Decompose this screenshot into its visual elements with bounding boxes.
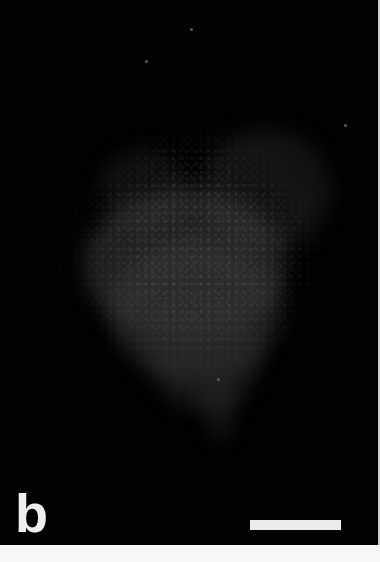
scale-bar — [250, 520, 341, 530]
figure-margin — [0, 545, 380, 562]
bright-speck — [190, 28, 193, 31]
bright-speck — [344, 124, 347, 127]
bright-speck — [217, 378, 220, 381]
micrograph-panel: b — [0, 0, 378, 545]
cell-fluorescence — [0, 0, 378, 545]
panel-label: b — [15, 486, 48, 540]
cell-speckle-texture — [60, 100, 360, 440]
bright-speck — [145, 60, 148, 63]
